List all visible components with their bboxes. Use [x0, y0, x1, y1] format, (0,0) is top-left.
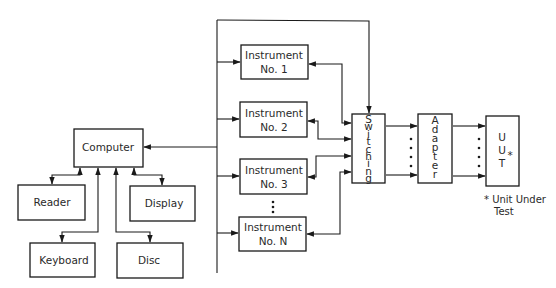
keyboard-block: Keyboard: [30, 243, 95, 277]
wire-computer-display: [134, 168, 162, 185]
instrument-number: No. 2: [260, 121, 287, 133]
ellipsis-switching-adapter: [410, 138, 413, 168]
instrument-label: Instrument: [245, 49, 303, 61]
instrument-n-block: Instrument No. N: [239, 217, 306, 251]
footnote-line-2: Test: [493, 206, 514, 217]
keyboard-label: Keyboard: [39, 254, 88, 266]
instrument-number: No. 3: [260, 178, 287, 190]
disc-label: Disc: [138, 254, 160, 266]
instrument-label: Instrument: [244, 221, 302, 233]
wire-instrument-1-switching: [309, 64, 351, 123]
footnote-line-1: * Unit Under: [484, 194, 547, 205]
instrument-3-block: Instrument No. 3: [240, 159, 307, 194]
wire-instrument-n-switching: [307, 172, 351, 234]
ellipsis-adapter-uut: [478, 138, 481, 168]
footnote: * Unit Under Test: [484, 194, 547, 217]
uut-block: UUT*: [486, 116, 519, 186]
wire-instrument-2-switching: [308, 121, 351, 139]
uut-letter: U: [498, 131, 506, 143]
display-block: Display: [130, 186, 195, 221]
display-label: Display: [145, 197, 184, 209]
instrument-2-block: Instrument No. 2: [240, 102, 307, 137]
instrument-number: No. N: [259, 235, 288, 247]
wire-instrument-3-switching: [308, 156, 351, 177]
wire-computer-reader: [52, 168, 80, 184]
adapter-letter: r: [433, 168, 438, 180]
uut-letter: U: [498, 144, 506, 156]
instrument-number: No. 1: [260, 63, 287, 75]
instrument-1-block: Instrument No. 1: [241, 45, 308, 79]
uut-letter: T: [498, 157, 506, 169]
instrument-label: Instrument: [245, 164, 303, 176]
computer-label: Computer: [82, 141, 135, 153]
ellipsis-instruments: [272, 201, 275, 214]
instrument-label: Instrument: [245, 107, 303, 119]
switching-block: Switching: [352, 113, 385, 185]
reader-block: Reader: [18, 185, 85, 220]
disc-block: Disc: [117, 243, 183, 278]
diagram-canvas: Computer Reader Display Keyboard Disc In…: [0, 0, 556, 288]
reader-label: Reader: [33, 196, 71, 208]
computer-block: Computer: [74, 129, 143, 167]
adapter-block: Adapter: [418, 114, 452, 183]
uut-asterisk: *: [507, 149, 512, 161]
switching-letter: g: [365, 172, 372, 184]
adapter-label: Adapter: [431, 114, 439, 179]
